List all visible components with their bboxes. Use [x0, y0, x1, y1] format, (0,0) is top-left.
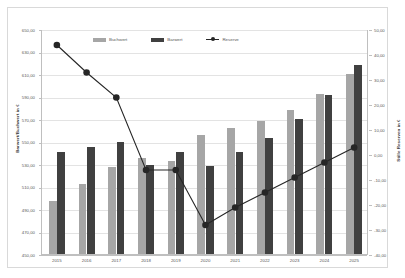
x-axis-tick-label: 2019 — [161, 258, 191, 263]
y-axis-left-tick-label: 490,00 — [0, 208, 35, 213]
y-axis-right-tick-label: 10,00 — [374, 128, 405, 133]
gridline — [42, 255, 367, 256]
y-axis-right-tickmark — [369, 105, 372, 106]
y-axis-left-tick-label: 570,00 — [0, 118, 35, 123]
reserve-data-point — [202, 222, 209, 229]
y-axis-right-tickmark — [369, 55, 372, 56]
y-axis-left-tickmark — [39, 255, 42, 256]
x-axis-tick-label: 2017 — [101, 258, 131, 263]
y-axis-right-tickmark — [369, 80, 372, 81]
y-axis-right-tickmark — [369, 130, 372, 131]
y-axis-right-tick-label: 20,00 — [374, 103, 405, 108]
y-axis-right-tick-label: -30,00 — [374, 228, 405, 233]
y-axis-right-tickmark — [369, 155, 372, 156]
reserve-data-point — [172, 167, 179, 174]
x-axis-tick-label: 2021 — [220, 258, 250, 263]
reserve-data-point — [291, 174, 298, 181]
y-axis-right-tickmark — [369, 205, 372, 206]
y-axis-left-tick-label: 550,00 — [0, 140, 35, 145]
x-axis-tick-label: 2020 — [191, 258, 221, 263]
y-axis-left-tick-label: 610,00 — [0, 73, 35, 78]
y-axis-right-tick-label: 40,00 — [374, 53, 405, 58]
reserve-line-series — [42, 30, 369, 255]
y-axis-left-tick-label: 510,00 — [0, 185, 35, 190]
reserve-data-point — [262, 189, 269, 196]
y-axis-right-tick-label: -40,00 — [374, 253, 405, 258]
y-axis-left-tick-label: 590,00 — [0, 95, 35, 100]
reserve-data-point — [143, 167, 150, 174]
reserve-data-point — [321, 159, 328, 166]
y-axis-right-tick-label: 50,00 — [374, 28, 405, 33]
y-axis-left-tick-label: 450,00 — [0, 253, 35, 258]
y-axis-right-tick-label: 0,00 — [374, 153, 405, 158]
x-axis-tick-label: 2022 — [250, 258, 280, 263]
y-axis-right-tickmark — [369, 180, 372, 181]
y-axis-left-tick-label: 470,00 — [0, 230, 35, 235]
y-axis-right-tickmark — [369, 255, 372, 256]
y-axis-left-tick-label: 650,00 — [0, 28, 35, 33]
reserve-data-point — [113, 94, 120, 101]
x-axis-tick-label: 2018 — [131, 258, 161, 263]
x-axis-tick-label: 2016 — [72, 258, 102, 263]
x-axis-tick-label: 2024 — [310, 258, 340, 263]
reserve-data-point — [232, 204, 239, 211]
y-axis-right-tick-label: -20,00 — [374, 203, 405, 208]
chart-frame: Barwert/Buchwert in € Stille Reserven in… — [7, 7, 388, 268]
y-axis-left-tick-label: 530,00 — [0, 163, 35, 168]
y-axis-left-tick-label: 630,00 — [0, 50, 35, 55]
x-axis-tick-label: 2015 — [42, 258, 72, 263]
y-axis-right-tick-label: -10,00 — [374, 178, 405, 183]
x-axis-tick-label: 2025 — [339, 258, 369, 263]
reserve-data-point — [54, 42, 61, 49]
plot-area: 650,00630,00610,00590,00570,00550,00530,… — [41, 30, 368, 255]
y-axis-right-tick-label: 30,00 — [374, 78, 405, 83]
x-axis-tick-label: 2023 — [280, 258, 310, 263]
reserve-data-point — [351, 144, 358, 151]
reserve-data-point — [83, 69, 90, 76]
y-axis-right-tickmark — [369, 230, 372, 231]
reserve-line — [57, 45, 354, 225]
y-axis-right-tickmark — [369, 30, 372, 31]
